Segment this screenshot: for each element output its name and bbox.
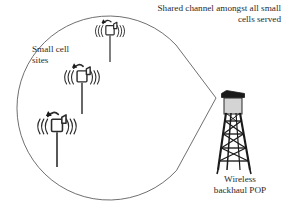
label-shared-channel: Shared channel amongst all small cells s…: [155, 3, 281, 24]
small-cell-middle: [65, 63, 100, 114]
diagram-canvas: Shared channel amongst all small cells s…: [0, 0, 283, 211]
label-wireless-backhaul-pop: Wireless backhaul POP: [198, 174, 282, 195]
small-cell-bottom: [38, 111, 76, 167]
label-small-cell-sites: Small cell sites: [32, 44, 104, 65]
wireless-backhaul-tower: [217, 91, 251, 175]
